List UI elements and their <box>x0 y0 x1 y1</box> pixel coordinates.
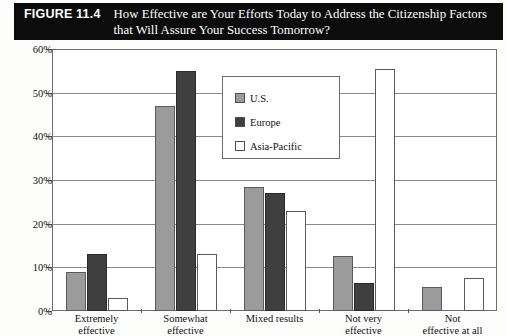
y-tick-mark <box>46 311 52 312</box>
legend-label: U.S. <box>250 93 269 104</box>
x-tick-label-line2: effective <box>52 325 141 336</box>
bar-europe-not-very-effective <box>354 283 374 311</box>
bar-europe-somewhat-effective <box>176 71 196 311</box>
legend-swatch-us <box>235 93 245 103</box>
legend-label: Europe <box>250 117 280 128</box>
x-axis-labels: ExtremelyeffectiveSomewhateffectiveMixed… <box>52 313 497 336</box>
x-tick-label-line1: Somewhat <box>141 313 230 325</box>
x-tick-label-line1: Mixed results <box>230 313 319 325</box>
legend-item: Asia-Pacific <box>235 134 339 158</box>
x-tick-label-line2: effective at all <box>408 325 497 336</box>
bar-asia-pacific-not-effective-at-all <box>464 278 484 311</box>
bar-u-s--not-very-effective <box>333 256 353 311</box>
legend-item: Europe <box>235 110 339 134</box>
x-tick-label-line1: Not <box>408 313 497 325</box>
bar-asia-pacific-extremely-effective <box>108 298 128 311</box>
legend-label: Asia-Pacific <box>250 141 302 152</box>
chart-legend: U.S.EuropeAsia-Pacific <box>222 76 340 159</box>
figure-caption-line1: How Effective are Your Efforts Today to … <box>114 7 487 21</box>
bar-europe-extremely-effective <box>87 254 107 311</box>
x-tick-label: Mixed results <box>230 313 319 325</box>
bar-europe-mixed-results <box>265 193 285 311</box>
bar-u-s--mixed-results <box>244 187 264 311</box>
x-tick-label: Noteffective at all <box>408 313 497 336</box>
legend-swatch-europe <box>235 117 245 127</box>
legend-swatch-asia-pacific <box>235 141 245 151</box>
figure-title-banner: FIGURE 11.4 How Effective are Your Effor… <box>14 3 503 40</box>
bar-u-s--extremely-effective <box>66 272 86 311</box>
figure-caption-line2: that Will Assure Your Success Tomorrow? <box>114 22 487 38</box>
figure-page: FIGURE 11.4 How Effective are Your Effor… <box>0 0 507 336</box>
bar-u-s--somewhat-effective <box>155 106 175 311</box>
y-axis: 0%10%20%30%40%50%60% <box>0 0 52 336</box>
legend-item: U.S. <box>235 86 339 110</box>
x-tick-label-line2: effective <box>319 325 408 336</box>
x-tick-label-line1: Extremely <box>52 313 141 325</box>
x-tick-label: Extremelyeffective <box>52 313 141 336</box>
bar-asia-pacific-mixed-results <box>286 211 306 311</box>
bar-asia-pacific-somewhat-effective <box>197 254 217 311</box>
x-tick-label: Somewhateffective <box>141 313 230 336</box>
x-tick-label: Not veryeffective <box>319 313 408 336</box>
x-tick-label-line1: Not very <box>319 313 408 325</box>
figure-caption: How Effective are Your Efforts Today to … <box>114 6 487 38</box>
bar-asia-pacific-not-very-effective <box>375 69 395 311</box>
x-tick-label-line2: effective <box>141 325 230 336</box>
bar-u-s--not-effective-at-all <box>422 287 442 311</box>
